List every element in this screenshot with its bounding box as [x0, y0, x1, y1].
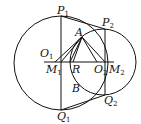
label-q1: Q1 [57, 110, 71, 124]
label-o1: O1 [40, 47, 54, 61]
label-p2: P2 [101, 16, 114, 30]
label-r: R [71, 63, 80, 76]
tangent-q1-q2 [61, 95, 105, 110]
label-m1: M1 [45, 63, 62, 77]
line-a-m2 [82, 37, 105, 62]
label-b: B [71, 82, 80, 95]
label-m2: M2 [108, 63, 125, 77]
label-a: A [74, 26, 83, 39]
label-p1: P1 [56, 4, 69, 18]
label-q2: Q2 [104, 94, 118, 108]
line-a-o2 [82, 37, 97, 62]
geometry-diagram: P1 P2 A O1 M1 R O2 M2 B Q1 Q2 [0, 0, 141, 124]
